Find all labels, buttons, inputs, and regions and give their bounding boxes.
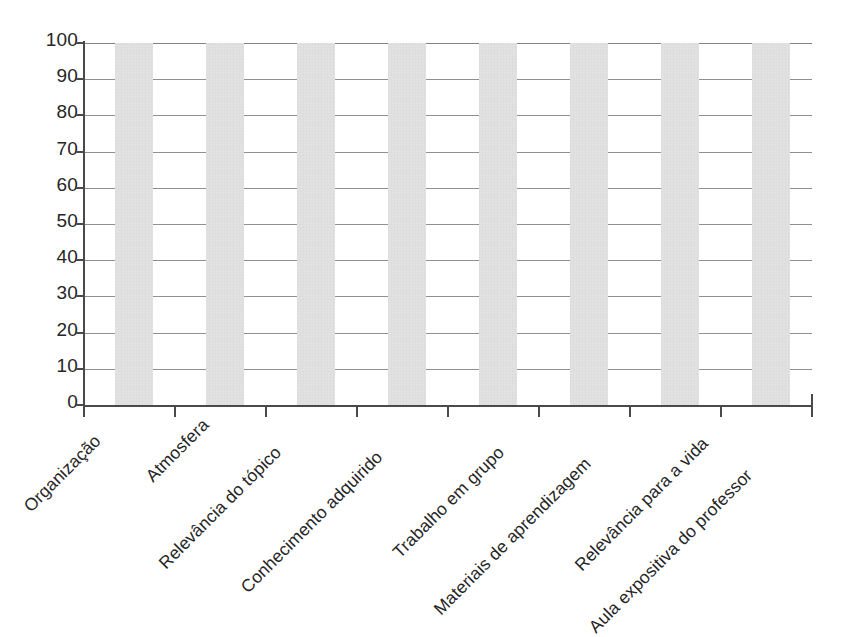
- bar-trabalho-em-grupo: [479, 43, 517, 405]
- y-tick-mark-100: [76, 42, 85, 44]
- x-tick-mark: [447, 406, 449, 417]
- bar-organizacao: [115, 43, 153, 405]
- y-tick-label: 50: [20, 211, 78, 230]
- x-tick-label-aula-expositiva-do-professor: Aula expositiva do professor: [585, 466, 755, 636]
- bar-relevancia-do-topico: [297, 43, 335, 405]
- y-tick-mark-90: [76, 78, 85, 80]
- x-tick-mark: [265, 406, 267, 417]
- x-tick-mark: [720, 406, 722, 417]
- y-tick-mark-70: [76, 151, 85, 153]
- gridline-30: [84, 296, 812, 297]
- x-tick-label-trabalho-em-grupo: Trabalho em grupo: [389, 443, 507, 561]
- x-tick-mark: [538, 406, 540, 417]
- y-tick-label: 10: [20, 356, 78, 375]
- y-tick-mark-60: [76, 187, 85, 189]
- y-tick-label: 40: [20, 247, 78, 266]
- y-tick-mark-10: [76, 368, 85, 370]
- x-tick-label-organizacao: Organização: [20, 431, 104, 515]
- gridline-90: [84, 79, 812, 80]
- bar-atmosfera: [206, 43, 244, 405]
- y-tick-label: 90: [20, 66, 78, 85]
- y-axis-tick-labels: 100 90 80 70 60 50 40 30 20 10 0: [20, 30, 78, 412]
- gridline-70: [84, 152, 812, 153]
- y-tick-label: 100: [20, 30, 78, 49]
- x-tick-label-conhecimento-adquirido: Conhecimento adquirido: [237, 448, 385, 596]
- y-tick-mark-40: [76, 259, 85, 261]
- gridline-40: [84, 260, 812, 261]
- gridline-80: [84, 115, 812, 116]
- bar-conhecimento-adquirido: [388, 43, 426, 405]
- x-tick-label-relevancia-do-topico: Relevância do tópico: [155, 443, 284, 572]
- x-tick-mark: [811, 406, 813, 417]
- bar-aula-expositiva-do-professor: [752, 43, 790, 405]
- y-tick-mark-20: [76, 332, 85, 334]
- gridline-60: [84, 188, 812, 189]
- y-tick-mark-30: [76, 295, 85, 297]
- x-tick-label-relevancia-para-a-vida: Relevância para a vida: [571, 434, 711, 574]
- gridline-10: [84, 369, 812, 370]
- x-tick-mark: [356, 406, 358, 417]
- plot-area: [84, 43, 812, 405]
- y-tick-label: 60: [20, 175, 78, 194]
- x-tick-mark: [83, 406, 85, 417]
- y-tick-mark-80: [76, 114, 85, 116]
- y-tick-label: 80: [20, 102, 78, 121]
- y-tick-mark-50: [76, 223, 85, 225]
- x-tick-label-materiais-de-aprendizagem: Materiais de aprendizagem: [430, 454, 594, 618]
- x-tick-mark: [174, 406, 176, 417]
- gridline-100: [84, 43, 812, 44]
- x-tick-mark: [629, 406, 631, 417]
- gridline-20: [84, 333, 812, 334]
- y-tick-label: 30: [20, 283, 78, 302]
- bar-relevancia-para-a-vida: [661, 43, 699, 405]
- y-tick-label: 0: [20, 392, 78, 411]
- bar-materiais-de-aprendizagem: [570, 43, 608, 405]
- y-tick-label: 20: [20, 320, 78, 339]
- x-tick-label-atmosfera: Atmosfera: [142, 415, 212, 485]
- y-tick-label: 70: [20, 139, 78, 158]
- gridline-50: [84, 224, 812, 225]
